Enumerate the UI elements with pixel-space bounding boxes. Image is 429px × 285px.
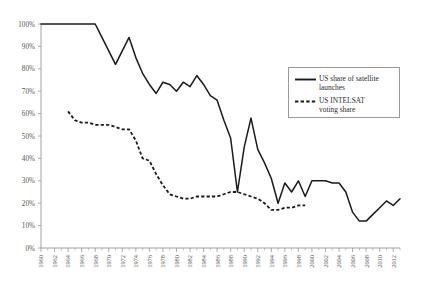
y-axis-tick-label: 80%	[22, 65, 35, 73]
x-axis-tick-label: 1962	[51, 255, 58, 268]
series-line-us-satellite-launch-share	[41, 24, 400, 221]
x-axis-tick-label: 1972	[119, 255, 126, 268]
x-axis-tick-label: 1976	[146, 255, 153, 268]
x-axis-tick-label: 1970	[105, 255, 112, 268]
x-axis-tick-label: 1988	[227, 255, 234, 268]
x-axis-tick-label: 2008	[363, 255, 370, 268]
y-axis-tick-label: 100%	[18, 21, 35, 29]
y-axis-tick-label: 90%	[22, 43, 35, 51]
y-axis-tick-label: 10%	[22, 222, 35, 230]
legend-label-satellite-launches: US share of satellite launches	[319, 74, 379, 92]
chart-legend: US share of satellite launches US INTELS…	[288, 67, 400, 118]
legend-dashed-line-icon	[295, 97, 316, 106]
x-axis-tick-label: 2002	[322, 255, 329, 268]
x-axis: 1960196219641966196819701972197419761978…	[37, 248, 400, 268]
x-axis-tick-label: 1982	[186, 255, 193, 268]
x-axis-tick-label: 1960	[37, 255, 44, 268]
y-axis-tick-label: 50%	[22, 133, 35, 141]
x-axis-tick-label: 2000	[308, 255, 315, 268]
x-axis-tick-label: 1996	[281, 255, 288, 268]
x-axis-tick-label: 1974	[132, 254, 139, 268]
legend-label-intelsat-voting: US INTELSAT voting share	[319, 96, 365, 114]
x-axis-tick-label: 1984	[200, 254, 207, 268]
series-line-intelsat-voting-share	[68, 111, 305, 210]
x-axis-tick-label: 2004	[335, 254, 342, 268]
x-axis-tick-label: 1966	[78, 255, 85, 268]
legend-entry-intelsat-voting: US INTELSAT voting share	[295, 96, 365, 114]
x-axis-tick-label: 2010	[376, 255, 383, 268]
x-axis-tick-label: 1998	[295, 255, 302, 268]
x-axis-tick-label: 1986	[214, 255, 221, 268]
y-axis-tick-label: 70%	[22, 88, 35, 96]
x-axis-tick-label: 2006	[349, 255, 356, 268]
x-axis-tick-label: 1994	[268, 254, 275, 268]
y-axis-tick-label: 20%	[22, 200, 35, 208]
x-axis-tick-label: 1990	[241, 255, 248, 268]
x-axis-tick-label: 1964	[64, 254, 71, 268]
legend-solid-line-icon	[295, 75, 316, 84]
y-axis: 0%10%20%30%40%50%60%70%80%90%100%	[18, 21, 41, 253]
y-axis-tick-label: 40%	[22, 155, 35, 163]
chart-container: 0%10%20%30%40%50%60%70%80%90%100% 196019…	[0, 0, 429, 285]
legend-entry-satellite-launches: US share of satellite launches	[295, 74, 379, 92]
x-axis-tick-label: 1980	[173, 255, 180, 268]
x-axis-tick-label: 2012	[390, 255, 397, 268]
x-axis-tick-label: 1978	[159, 255, 166, 268]
chart-plot-area: 0%10%20%30%40%50%60%70%80%90%100% 196019…	[0, 0, 429, 285]
y-axis-tick-label: 60%	[22, 110, 35, 118]
x-axis-tick-label: 1968	[92, 255, 99, 268]
data-series-group	[41, 24, 400, 221]
y-axis-tick-label: 0%	[25, 245, 35, 253]
x-axis-tick-label: 1992	[254, 255, 261, 268]
y-axis-tick-label: 30%	[22, 177, 35, 185]
